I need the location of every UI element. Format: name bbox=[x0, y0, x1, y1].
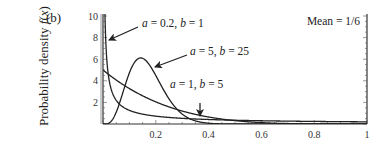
beta-density-chart: 2468100.20.40.60.81a = 0.2, b = 1a = 5, … bbox=[0, 0, 385, 148]
x-tick-label: 1 bbox=[365, 129, 370, 140]
annotation-a5-b25: a = 5, b = 25 bbox=[190, 45, 249, 58]
annotation-a0.2-b1: a = 0.2, b = 1 bbox=[142, 17, 204, 30]
arrow-a5-b25 bbox=[155, 55, 187, 67]
x-tick-label: 0.8 bbox=[308, 129, 321, 140]
x-tick-label: 0.6 bbox=[255, 129, 268, 140]
mean-annotation: Mean = 1/6 bbox=[307, 15, 360, 27]
arrow-a0.2-b1 bbox=[109, 27, 138, 40]
annotation-a1-b5: a = 1, b = 5 bbox=[170, 78, 223, 91]
curve-a1-b5 bbox=[103, 70, 367, 124]
x-tick-label: 0.4 bbox=[202, 129, 215, 140]
y-tick-label: 10 bbox=[88, 11, 98, 22]
x-tick-label: 0.2 bbox=[150, 129, 163, 140]
y-tick-label: 8 bbox=[93, 32, 98, 43]
y-tick-label: 6 bbox=[93, 54, 98, 65]
y-tick-label: 4 bbox=[93, 75, 98, 86]
y-tick-label: 2 bbox=[93, 97, 98, 108]
